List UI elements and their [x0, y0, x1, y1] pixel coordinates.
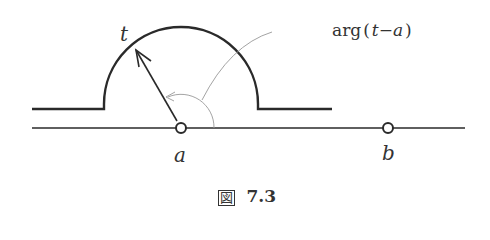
vector-t-minus-a	[136, 50, 177, 121]
label-a: a	[174, 143, 186, 167]
label-t: t	[120, 22, 128, 46]
figure-caption: 図 7.3	[218, 186, 276, 206]
angle-arc	[168, 94, 214, 128]
arg-minus: −	[379, 20, 393, 40]
label-arg: arg(t−a)	[332, 20, 412, 40]
leader-curve	[202, 32, 272, 100]
arg-a: a	[393, 20, 403, 40]
point-b	[383, 123, 393, 133]
arg-prefix: arg	[332, 20, 361, 40]
contour-path	[32, 27, 332, 109]
arg-t: t	[372, 20, 379, 40]
caption-prefix: 図	[218, 190, 235, 206]
label-b: b	[382, 141, 395, 165]
arg-close: )	[405, 20, 412, 40]
caption-number: 7.3	[246, 186, 276, 206]
point-a	[176, 123, 186, 133]
arg-open: (	[363, 20, 370, 40]
